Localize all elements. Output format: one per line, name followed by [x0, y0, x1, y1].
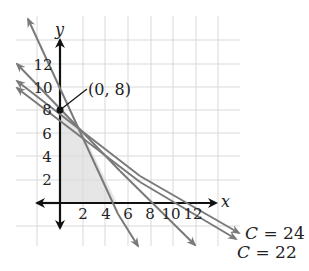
y-tick-12: 12: [33, 56, 52, 74]
x-tick-8: 8: [145, 205, 155, 223]
linear-programming-graph: (0, 8) y x 2 4 6 8 10 12 2 4 6 8 10 12 C…: [0, 0, 309, 271]
y-tick-6: 6: [42, 125, 52, 143]
y-tick-10: 10: [33, 79, 52, 97]
x-tick-12: 12: [183, 205, 202, 223]
c22-label: C = 22: [237, 242, 297, 262]
y-tick-8: 8: [42, 101, 52, 119]
x-tick-6: 6: [123, 205, 133, 223]
point-label: (0, 8): [88, 80, 131, 99]
c24-label: C = 24: [245, 223, 305, 243]
y-axis-label: y: [54, 20, 65, 39]
chart-canvas: (0, 8) y x 2 4 6 8 10 12 2 4 6 8 10 12 C…: [0, 0, 309, 271]
x-tick-4: 4: [101, 205, 111, 223]
x-tick-10: 10: [161, 205, 180, 223]
y-tick-4: 4: [42, 148, 52, 166]
x-axis-label: x: [221, 192, 230, 211]
y-tick-2: 2: [42, 171, 52, 189]
x-tick-2: 2: [78, 205, 88, 223]
